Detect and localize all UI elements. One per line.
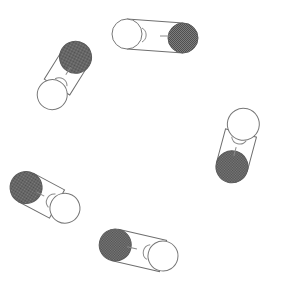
white-sphere <box>112 19 142 49</box>
dumbbell-bottom <box>96 226 181 275</box>
dumbbell-right <box>212 105 263 187</box>
scene-canvas <box>0 0 289 297</box>
dumbbell-lower-left <box>4 166 85 229</box>
dumbbell-top <box>112 19 198 53</box>
dark-sphere <box>168 23 198 53</box>
dumbbell-upper-left <box>31 35 98 116</box>
dumbbell-scene-svg <box>0 0 289 297</box>
